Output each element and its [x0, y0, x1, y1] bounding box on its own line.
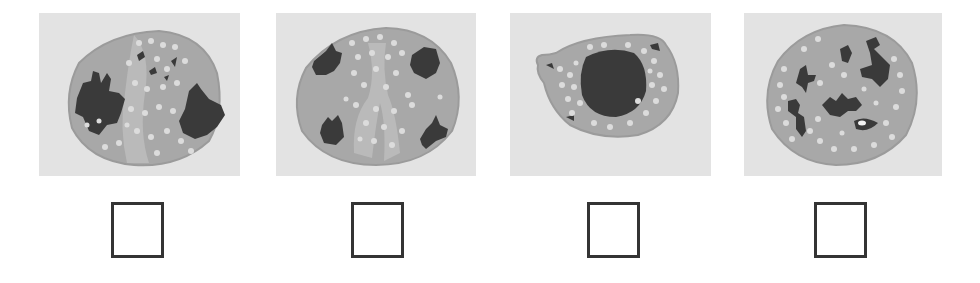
checkbox-cell-4[interactable] — [814, 202, 867, 258]
cell-illustration-bilobed — [39, 13, 240, 176]
cell-image-2: Cell with four small dark nuclear lobes … — [276, 13, 476, 176]
cell-image-1: Cell with two large dark irregular nucle… — [39, 13, 240, 176]
cell-image-4: Round cell with multiple small dark frag… — [744, 13, 942, 176]
checkbox-cell-2[interactable] — [351, 202, 404, 258]
cell-image-3: Oval cell with one large round dark cent… — [510, 13, 711, 176]
cell-illustration-four-lobes — [276, 13, 476, 176]
cell-illustration-round-nucleus — [510, 13, 711, 176]
cell-illustration-fragmented-nucleus — [744, 13, 942, 176]
checkbox-cell-3[interactable] — [587, 202, 640, 258]
checkbox-cell-1[interactable] — [111, 202, 164, 258]
